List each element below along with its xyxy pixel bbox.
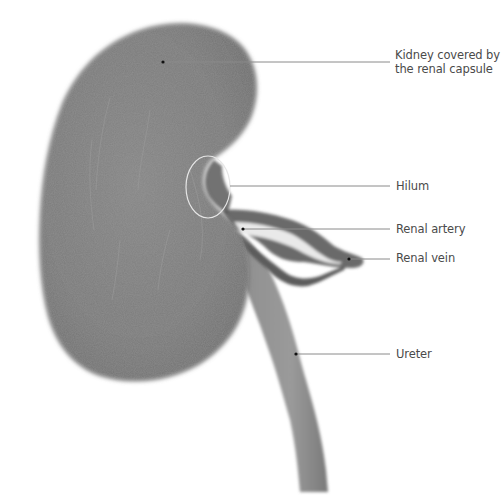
- label-ureter: Ureter: [396, 347, 432, 361]
- label-kidney: Kidney covered by the renal capsule: [395, 48, 500, 76]
- label-kidney-line1: Kidney covered by: [395, 48, 500, 62]
- label-kidney-line2: the renal capsule: [395, 62, 500, 76]
- kidney-body: [39, 23, 256, 381]
- anchor-dot-renal-vein: [347, 257, 350, 260]
- label-renal-artery: Renal artery: [396, 222, 465, 236]
- anchor-dot-renal-artery: [241, 227, 244, 230]
- label-hilum: Hilum: [396, 179, 429, 193]
- anchor-dot-ureter: [294, 352, 297, 355]
- label-renal-vein: Renal vein: [396, 251, 455, 265]
- anchor-dot-kidney: [161, 60, 164, 63]
